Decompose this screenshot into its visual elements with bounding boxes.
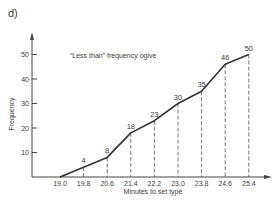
x-tick-label: 25.4: [242, 180, 256, 187]
point-label: 23: [150, 110, 158, 119]
ogive-chart: d) “Less than” frequency ogive 102030405…: [0, 0, 280, 208]
x-tick-label: 19.0: [53, 180, 67, 187]
x-tick-label: 23.0: [171, 180, 185, 187]
drop-lines: [84, 55, 249, 178]
x-tick-label: 24.6: [218, 180, 232, 187]
y-tick-label: 20: [21, 125, 29, 132]
point-label: 4: [82, 156, 86, 165]
y-axis-label: Frequency: [8, 97, 16, 131]
chart-figure: d) “Less than” frequency ogive 102030405…: [0, 0, 280, 208]
y-tick-label: 30: [21, 100, 29, 107]
x-axis-label: Minutes to set type: [124, 188, 183, 196]
y-tick-label: 50: [21, 51, 29, 58]
x-tick-label: 20.6: [100, 180, 114, 187]
point-label: 50: [245, 44, 253, 53]
y-axis-arrow-icon: [30, 32, 34, 40]
point-labels: 48182330354650: [82, 44, 253, 166]
point-label: 18: [127, 122, 135, 131]
x-tick-label: 23.8: [195, 180, 209, 187]
point-label: 8: [105, 146, 109, 155]
chart-title: “Less than” frequency ogive: [70, 52, 156, 60]
y-tick-label: 40: [21, 76, 29, 83]
y-ticks: 1020304050: [21, 51, 37, 156]
point-label: 46: [221, 53, 229, 62]
point-label: 30: [174, 93, 182, 102]
point-label: 35: [197, 80, 205, 89]
x-tick-label: 22.2: [148, 180, 162, 187]
x-tick-label: 21.4: [124, 180, 138, 187]
y-tick-label: 10: [21, 149, 29, 156]
x-ticks: 19.019.820.621.422.223.023.824.625.4: [53, 180, 256, 187]
panel-label: d): [8, 7, 18, 19]
x-tick-label: 19.8: [77, 180, 91, 187]
x-axis-arrow-icon: [264, 175, 272, 179]
